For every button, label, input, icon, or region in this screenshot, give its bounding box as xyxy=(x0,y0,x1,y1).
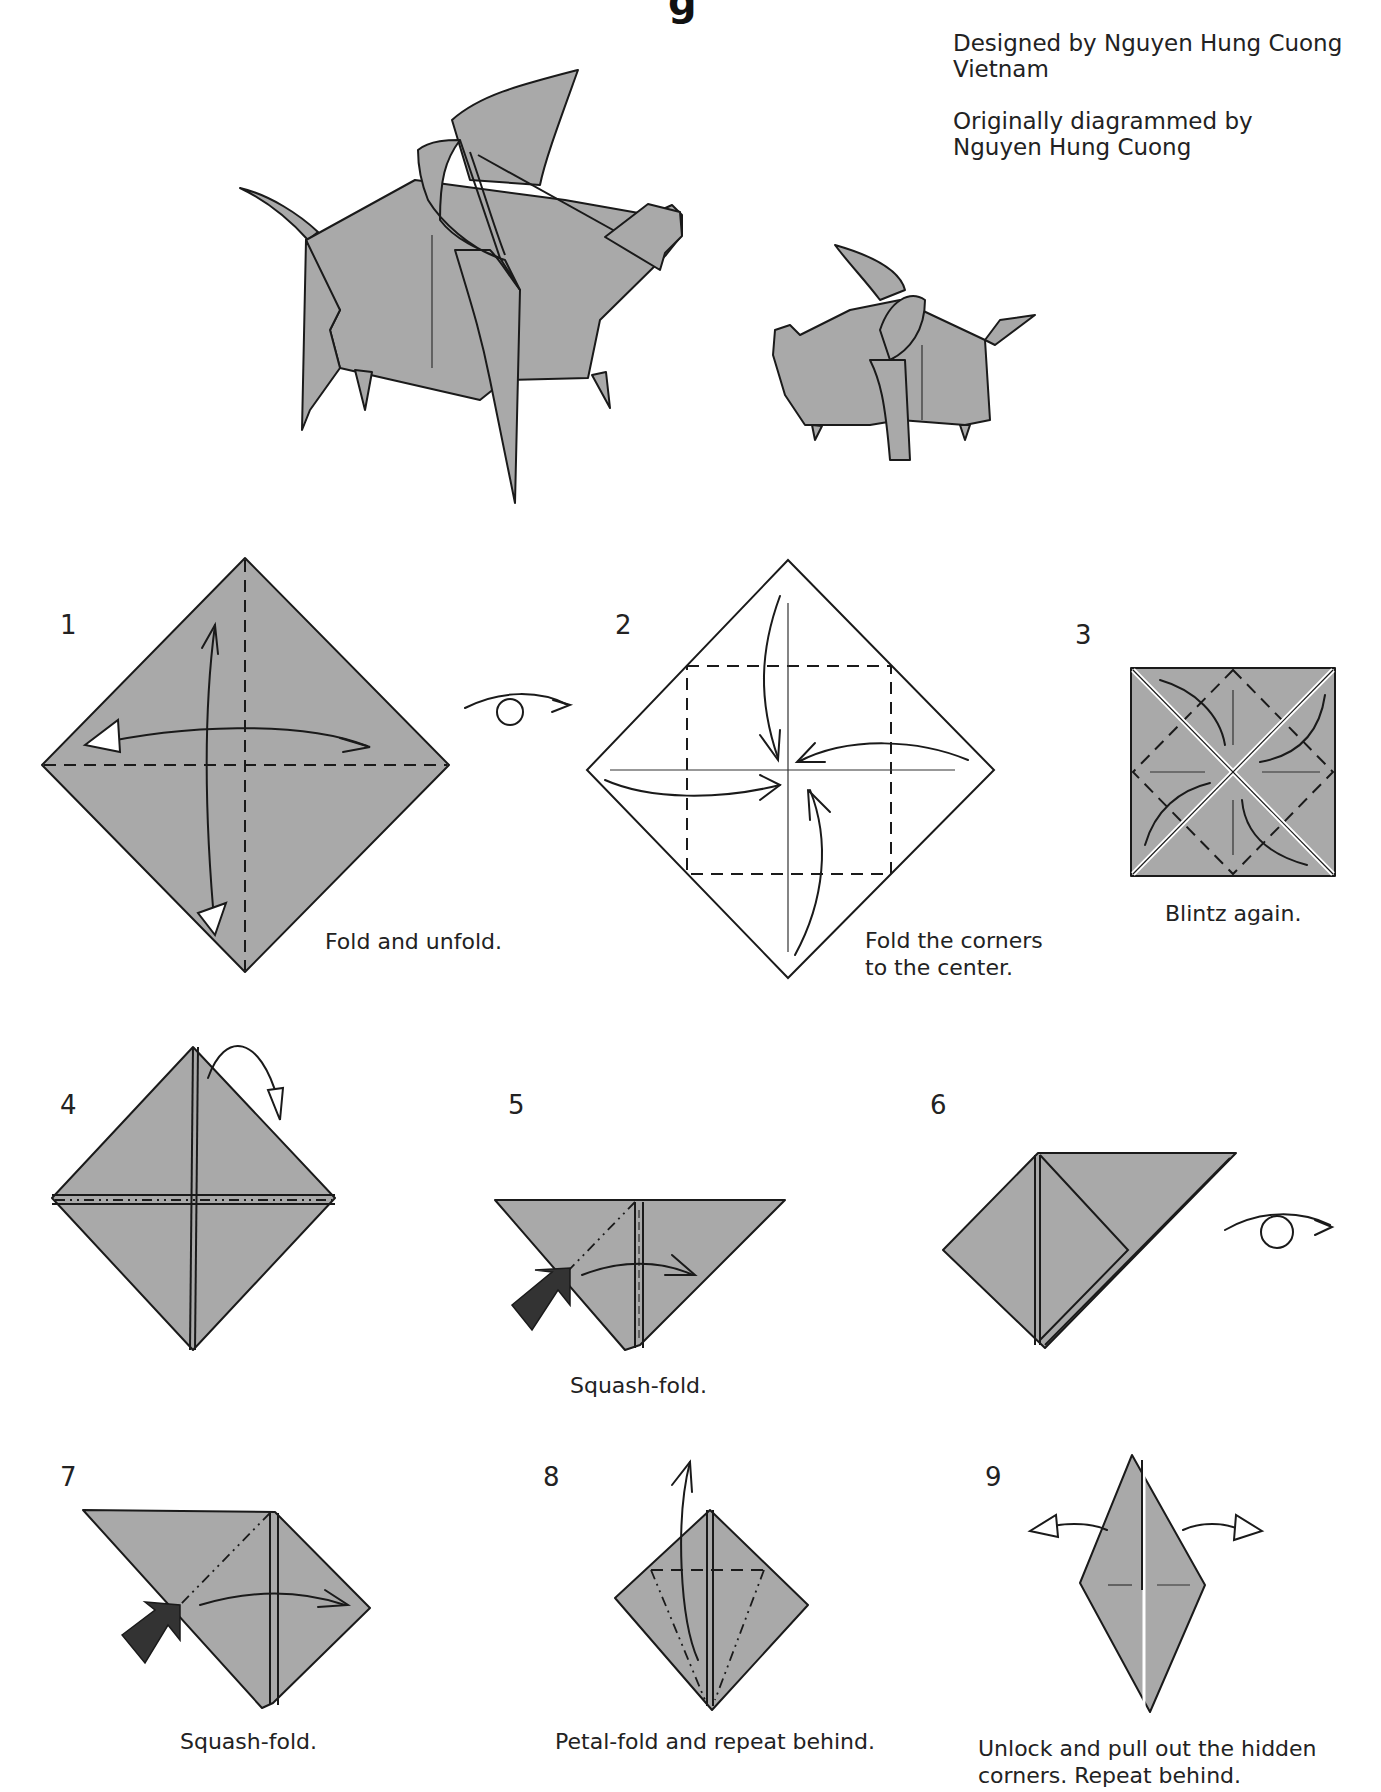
step-9-caption-line2: corners. Repeat behind. xyxy=(978,1763,1241,1788)
step-9-caption-line1: Unlock and pull out the hidden xyxy=(978,1736,1317,1761)
step-9-diagram xyxy=(0,0,1381,1792)
step-9-caption: Unlock and pull out the hidden corners. … xyxy=(978,1735,1317,1789)
